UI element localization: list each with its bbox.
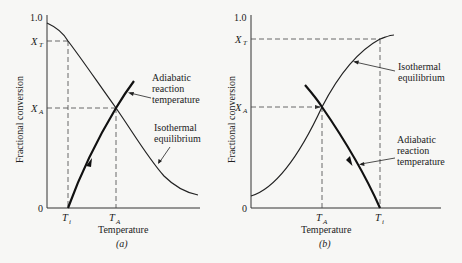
panel-b-isothermal-equilibrium-curve [251, 35, 394, 196]
panel-b-x-axis-label: Temperature [301, 224, 352, 235]
panel-a-y-tick-bottom: 0 [38, 203, 43, 214]
panel-b-adiabatic-annotation: Adiabatic reaction temperature [397, 134, 445, 167]
panel-a-y-axis-label: Fractional conversion [14, 76, 25, 163]
panel-a-xa-label: X [30, 103, 38, 114]
panel-b-isothermal-annotation: Isothermal equilibrium [398, 61, 445, 83]
panel-b-isothermal-leader-arrow-icon [353, 61, 359, 65]
panel-a-xt-sub: T [39, 41, 44, 49]
panel-a-caption: (a) [116, 238, 128, 250]
panel-b-adiabatic-leader [361, 158, 395, 164]
panel-a-ti-label: T [62, 212, 69, 223]
panel-b-ta-label: T [316, 212, 323, 223]
panel-a: 1.0 0 X T X A T i T A Temperature Fracti… [14, 12, 201, 250]
panel-b-adiabatic-line [305, 85, 380, 208]
panel-b-caption: (b) [319, 238, 331, 250]
panel-a-ti-sub: i [69, 218, 71, 226]
panel-b-direction-arrow-icon [346, 156, 353, 166]
panel-b-y-axis-label: Fractional conversion [226, 76, 237, 163]
panel-a-ta-label: T [109, 212, 116, 223]
panel-a-x-axis-label: Temperature [98, 224, 149, 235]
equilibrium-conversion-diagram: 1.0 0 X T X A T i T A Temperature Fracti… [0, 0, 462, 263]
panel-b-xa-label: X [234, 102, 242, 113]
panel-a-isothermal-equilibrium-curve [47, 23, 198, 195]
panel-b-ti-label: T [375, 212, 382, 223]
panel-b: Fractional conversion 1.0 0 X T X A T A … [226, 12, 445, 250]
panel-a-xt-label: X [30, 36, 38, 47]
panel-a-adiabatic-leader-arrow-icon [128, 92, 134, 96]
panel-b-xt-label: X [234, 34, 242, 45]
panel-b-ti-sub: i [382, 218, 384, 226]
panel-b-y-tick-top: 1.0 [234, 12, 247, 23]
panel-b-xa-sub: A [242, 107, 248, 115]
panel-b-isothermal-leader [355, 62, 395, 71]
panel-a-y-tick-top: 1.0 [30, 12, 43, 23]
panel-a-adiabatic-annotation: Adiabatic reaction temperature [152, 72, 200, 105]
panel-b-y-tick-bottom: 0 [242, 203, 247, 214]
panel-a-isothermal-annotation: Isothermal equilibrium [154, 122, 201, 144]
panel-a-adiabatic-line [68, 81, 134, 208]
panel-a-xa-sub: A [38, 108, 44, 116]
panel-b-xt-sub: T [243, 39, 248, 47]
